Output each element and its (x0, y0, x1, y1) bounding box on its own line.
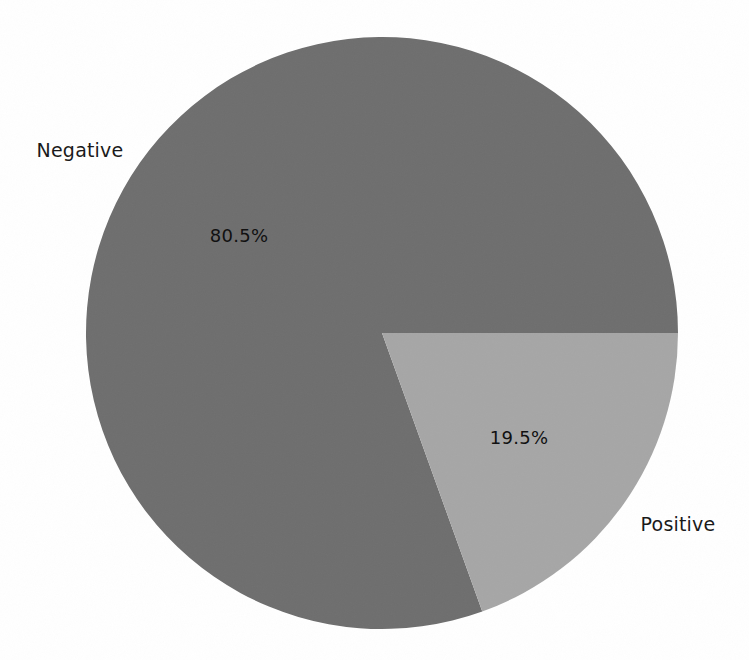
pie-label-negative: Negative (37, 141, 124, 160)
pie-label-positive: Positive (641, 515, 716, 534)
pie-chart-figure: Negative 80.5% Positive 19.5% (0, 0, 749, 660)
pie-percent-positive: 19.5% (490, 429, 549, 447)
pie-chart-canvas (0, 0, 749, 660)
pie-percent-negative: 80.5% (210, 227, 269, 245)
